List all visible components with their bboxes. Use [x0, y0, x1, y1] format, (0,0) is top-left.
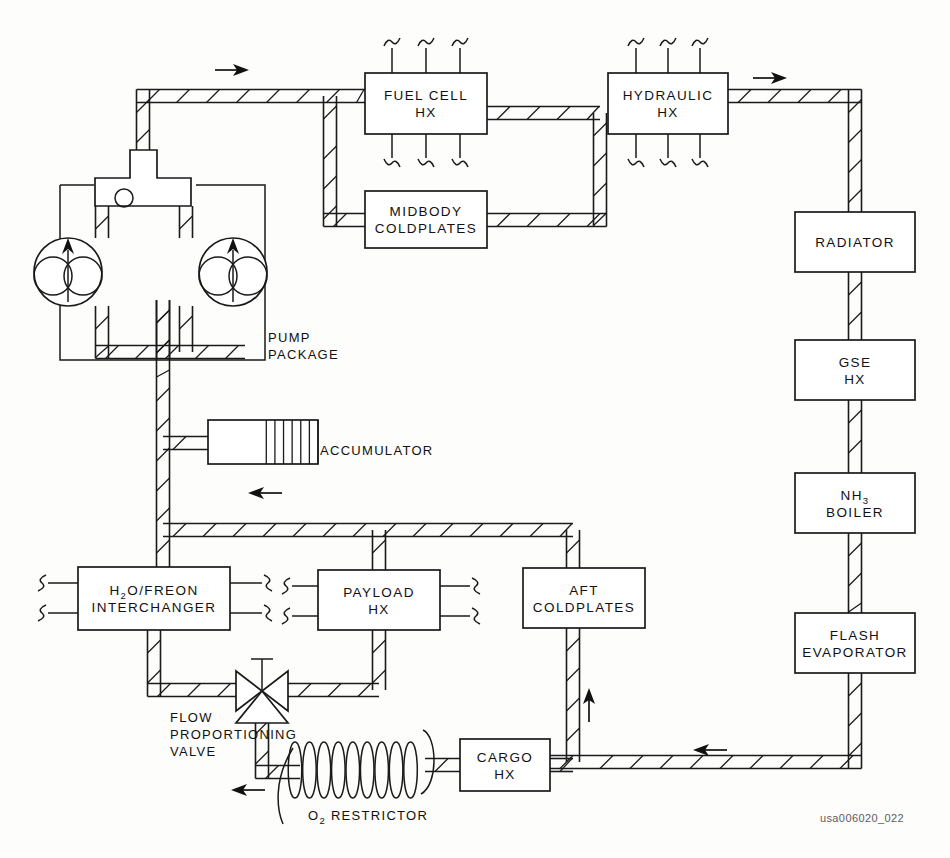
flow-proportioning-valve [236, 659, 288, 723]
hydraulic-hx-label: HX [657, 105, 679, 120]
pipe-segment [163, 524, 430, 537]
symbol-layer [34, 150, 434, 824]
flash-evaporator-label: FLASH [830, 628, 881, 643]
pump-right [199, 238, 267, 306]
gse-hx-label: GSE [839, 355, 872, 370]
break-squiggle [418, 159, 434, 167]
accumulator [208, 420, 318, 464]
arrow-bottom-right [693, 744, 727, 756]
hydraulic-hx-box [608, 73, 728, 134]
component-aft-coldplates: AFTCOLDPLATES [523, 568, 645, 628]
pipe-segment [849, 272, 862, 340]
pump-package-label-line: PACKAGE [268, 347, 339, 362]
pipe-segment [550, 756, 590, 769]
nh3-boiler-label: BOILER [826, 505, 884, 520]
pipe-segment [96, 206, 109, 238]
payload-hx-label: HX [368, 602, 390, 617]
component-fuel-cell-hx: FUEL CELLHX [365, 73, 487, 134]
midbody-coldplates-label: MIDBODY [390, 204, 463, 219]
aft-coldplates-label: AFT [569, 583, 599, 598]
break-squiggle [660, 38, 676, 46]
pipe-segment [137, 90, 366, 103]
break-squiggle [628, 159, 644, 167]
aft-coldplates-box [523, 568, 645, 628]
break-squiggle [38, 605, 46, 621]
nh3-boiler-box [795, 473, 915, 533]
h2o-freon-interchanger-box [78, 567, 230, 630]
pipe-segment [157, 530, 170, 567]
radiator-label: RADIATOR [815, 235, 895, 250]
pipe-segment [849, 533, 862, 613]
component-flash-evaporator: FLASHEVAPORATOR [795, 613, 915, 673]
cargo-hx-label: HX [494, 767, 516, 782]
pipe-segment [849, 673, 862, 769]
accumulator-label-line: ACCUMULATOR [320, 443, 434, 458]
arrow-accumulator [248, 487, 282, 499]
arrow-bottom-left [231, 784, 265, 796]
flow-proportioning-valve-label-line: FLOW [170, 710, 213, 725]
flash-evaporator-label: EVAPORATOR [802, 645, 908, 660]
pipe-segment [256, 766, 301, 779]
pipe-segment [157, 300, 170, 360]
o2-restrictor-label-line: O2 RESTRICTOR [308, 808, 428, 826]
break-squiggle [660, 159, 676, 167]
pipe-segment [550, 759, 573, 772]
pipe-segment [567, 628, 580, 762]
payload-hx-label: PAYLOAD [343, 585, 415, 600]
flow-proportioning-valve-label-line: PROPORTIONING [170, 727, 297, 742]
component-hydraulic-hx: HYDRAULICHX [608, 73, 728, 134]
component-nh3-boiler: NH3BOILER [795, 473, 915, 533]
hydraulic-hx-label: HYDRAULIC [623, 88, 714, 103]
pipe-segment [487, 107, 600, 120]
flash-evaporator-box [795, 613, 915, 673]
pipe-segment [180, 206, 193, 238]
component-cargo-hx: CARGOHX [460, 739, 550, 791]
pipe-segment [373, 630, 386, 690]
break-squiggle [38, 575, 46, 591]
coolant-loop-svg: FUEL CELLHXHYDRAULICHXMIDBODYCOLDPLATESR… [0, 0, 950, 858]
break-squiggle [282, 578, 290, 594]
pipe-segment [849, 90, 862, 213]
midbody-coldplates-box [365, 191, 487, 248]
break-squiggle [472, 608, 480, 624]
pump-manifold [95, 150, 191, 207]
pipe-segment [728, 90, 862, 103]
accumulator-label: ACCUMULATOR [320, 443, 434, 458]
h2o-freon-interchanger-label: INTERCHANGER [92, 600, 217, 615]
pipe-segment [594, 113, 607, 227]
aft-coldplates-label: COLDPLATES [533, 600, 635, 615]
break-squiggle [384, 38, 400, 46]
o2-restrictor-label: O2 RESTRICTOR [308, 808, 428, 826]
fuel-cell-hx-label: FUEL CELL [384, 88, 468, 103]
break-squiggle [472, 578, 480, 594]
pipe-segment [148, 630, 161, 697]
break-squiggle [628, 38, 644, 46]
break-squiggle [692, 159, 708, 167]
component-payload-hx: PAYLOADHX [318, 570, 440, 630]
flow-proportioning-valve-label-line: VALVE [170, 744, 216, 759]
pipe-segment [324, 214, 366, 227]
pipe-segment [157, 378, 170, 530]
break-squiggle [692, 38, 708, 46]
cargo-hx-label: CARGO [477, 750, 534, 765]
pump-left [34, 238, 102, 306]
pump-package-label-line: PUMP [268, 330, 311, 345]
pipe-segment [425, 759, 460, 772]
midbody-coldplates-label: COLDPLATES [375, 221, 477, 236]
arrow-top-right [753, 72, 787, 84]
pipe-segment [849, 400, 862, 473]
pipe-segment [487, 214, 607, 227]
component-radiator: RADIATOR [795, 212, 915, 272]
pipe-segment [96, 306, 109, 359]
break-squiggle [384, 159, 400, 167]
arrow-aft-riser [583, 688, 595, 722]
break-squiggle [418, 38, 434, 46]
fuel-cell-hx-label: HX [415, 105, 437, 120]
figure-caption: usa006020_022 [820, 812, 904, 824]
component-midbody-coldplates: MIDBODYCOLDPLATES [365, 191, 487, 248]
break-squiggle [264, 605, 272, 621]
pipe-segment [430, 524, 573, 537]
break-squiggle [452, 38, 468, 46]
pipe-segment [590, 756, 862, 769]
component-gse-hx: GSEHX [795, 340, 915, 400]
